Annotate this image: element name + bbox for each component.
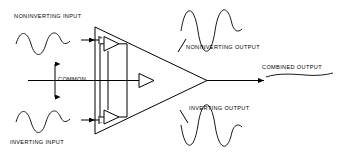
combined-output-label: COMBINED OUTPUT [262, 64, 322, 71]
upper-stage-output-wire [119, 44, 127, 81]
noninverting-output-label: NONINVERTING OUTPUT [186, 44, 260, 51]
inverting-output-leader [180, 110, 188, 123]
noninverting-input-waveform [16, 33, 70, 55]
noninverting-output-leader [178, 39, 186, 52]
inverting-terminal-sign: − [99, 119, 103, 125]
internal-inverting-stage-icon [104, 110, 119, 124]
noninverting-input-label: NONINVERTING INPUT [14, 13, 81, 20]
diagram-canvas: NONINVERTING INPUT INVERTING INPUT COMMO… [0, 0, 339, 159]
common-label: COMMON [58, 76, 86, 83]
combined-output-waveform [266, 73, 333, 77]
inverting-input-waveform [16, 111, 70, 133]
inverting-output-label: INVERTING OUTPUT [189, 105, 250, 112]
internal-noninverting-stage-icon [104, 37, 119, 52]
inverting-input-label: INVERTING INPUT [10, 139, 64, 146]
schematic-svg [0, 0, 339, 159]
internal-common-stage-icon [139, 74, 154, 88]
lower-stage-output-wire [119, 81, 127, 118]
noninverting-terminal-sign: + [99, 34, 103, 40]
